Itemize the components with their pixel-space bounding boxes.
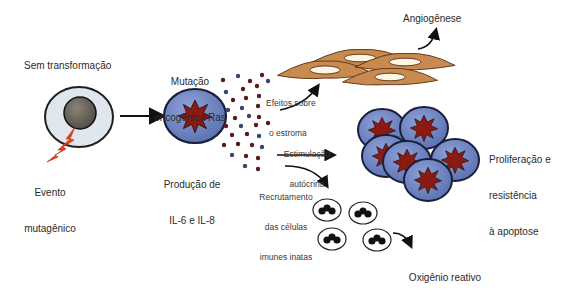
label-autocrine-line1: Estimulação xyxy=(280,149,334,159)
normal-cell xyxy=(45,87,113,147)
label-ras-line1: Mutação xyxy=(140,76,240,88)
label-proliferation: Proliferação e resistência à apoptose xyxy=(489,130,551,262)
label-normal-cell: Sem transformação xyxy=(24,60,111,72)
tumor-cell-cluster xyxy=(358,107,479,201)
label-recruit-line2: das células xyxy=(252,222,320,232)
label-recruit-line1: Recrutamento xyxy=(252,192,320,202)
diagram-canvas: Sem transformação Evento mutagênico Muta… xyxy=(0,0,567,294)
label-angiogenesis: Angiogênese xyxy=(403,13,461,25)
label-output-reactive-oxygen: Oxigênio reativo xyxy=(380,272,510,284)
label-mutagenic-event-line2: mutagênico xyxy=(22,223,78,235)
label-mutagenic-event: Evento mutagênico xyxy=(22,163,78,259)
label-il-production: Produção de IL-6 e IL-8 xyxy=(158,155,226,251)
label-proliferation-line1: Proliferação e xyxy=(489,154,551,166)
label-recruit-line3: imunes inatas xyxy=(252,252,320,262)
label-stroma-line1: Efeitos sobre xyxy=(266,98,316,108)
label-mutagenic-event-line1: Evento xyxy=(22,187,78,199)
label-immune-recruitment: Recrutamento das células imunes inatas xyxy=(252,172,320,282)
angiogenesis-arrow xyxy=(418,30,436,49)
label-ras-line2: oncogênica Ras xyxy=(140,112,240,124)
label-proliferation-line3: à apoptose xyxy=(489,226,551,238)
label-il-line1: Produção de xyxy=(158,179,226,191)
label-proliferation-line2: resistência xyxy=(489,190,551,202)
label-immune-outputs: Oxigênio reativo Metaloproteases Citocin… xyxy=(380,248,510,294)
label-il-line2: IL-6 e IL-8 xyxy=(158,215,226,227)
immune-output-arrow xyxy=(393,233,411,246)
label-ras-mutation: Mutação oncogênica Ras xyxy=(140,52,240,148)
